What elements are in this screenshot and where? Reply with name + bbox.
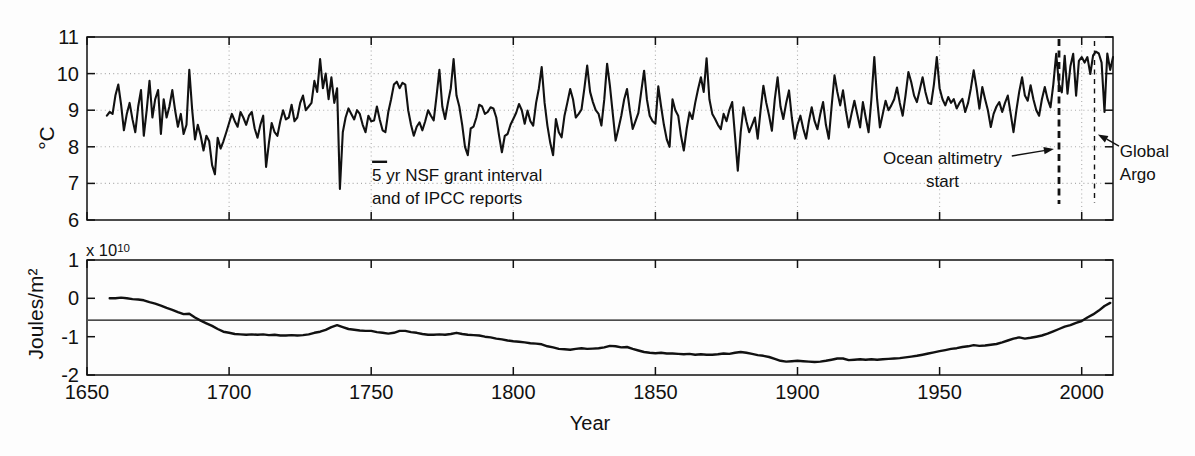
figure-canvas: 67891011-2-10116501700175018001850190019…: [0, 0, 1195, 456]
exponent-base: x 10: [86, 241, 117, 259]
top-y-axis-label: °C: [35, 126, 59, 150]
x-axis-label: Year: [570, 412, 610, 435]
svg-text:0: 0: [68, 287, 79, 309]
ocean-altimetry-annotation-line2: start: [883, 170, 1002, 193]
global-argo-annotation-line1: Global: [1120, 140, 1169, 163]
nsf-grant-annotation-line1: 5 yr NSF grant interval: [372, 164, 542, 187]
chart-canvas: 67891011-2-10116501700175018001850190019…: [0, 0, 1195, 456]
svg-text:1750: 1750: [349, 381, 394, 403]
svg-text:1800: 1800: [491, 381, 536, 403]
svg-text:1650: 1650: [65, 381, 110, 403]
svg-text:11: 11: [58, 26, 79, 48]
svg-text:6: 6: [68, 209, 79, 231]
bottom-y-axis-label: Joules/m²: [24, 268, 48, 359]
global-argo-annotation: Global Argo: [1120, 140, 1169, 186]
exponent-power: 10: [117, 242, 130, 254]
svg-text:1: 1: [68, 249, 79, 271]
svg-text:9: 9: [68, 99, 79, 121]
svg-text:8: 8: [68, 136, 79, 158]
svg-text:-1: -1: [61, 326, 79, 348]
svg-text:1700: 1700: [207, 381, 252, 403]
svg-text:10: 10: [57, 63, 79, 85]
svg-text:1950: 1950: [917, 381, 962, 403]
svg-text:1900: 1900: [775, 381, 820, 403]
ocean-altimetry-annotation: Ocean altimetry start: [883, 147, 1002, 193]
nsf-grant-annotation: 5 yr NSF grant interval and of IPCC repo…: [372, 164, 542, 210]
svg-text:2000: 2000: [1059, 381, 1104, 403]
svg-text:7: 7: [68, 172, 79, 194]
nsf-grant-annotation-line2: and of IPCC reports: [372, 187, 542, 210]
svg-text:1850: 1850: [633, 381, 678, 403]
ocean-altimetry-annotation-line1: Ocean altimetry: [883, 147, 1002, 170]
global-argo-annotation-line2: Argo: [1120, 163, 1169, 186]
exponent-scale-label: x 1010: [86, 241, 130, 260]
